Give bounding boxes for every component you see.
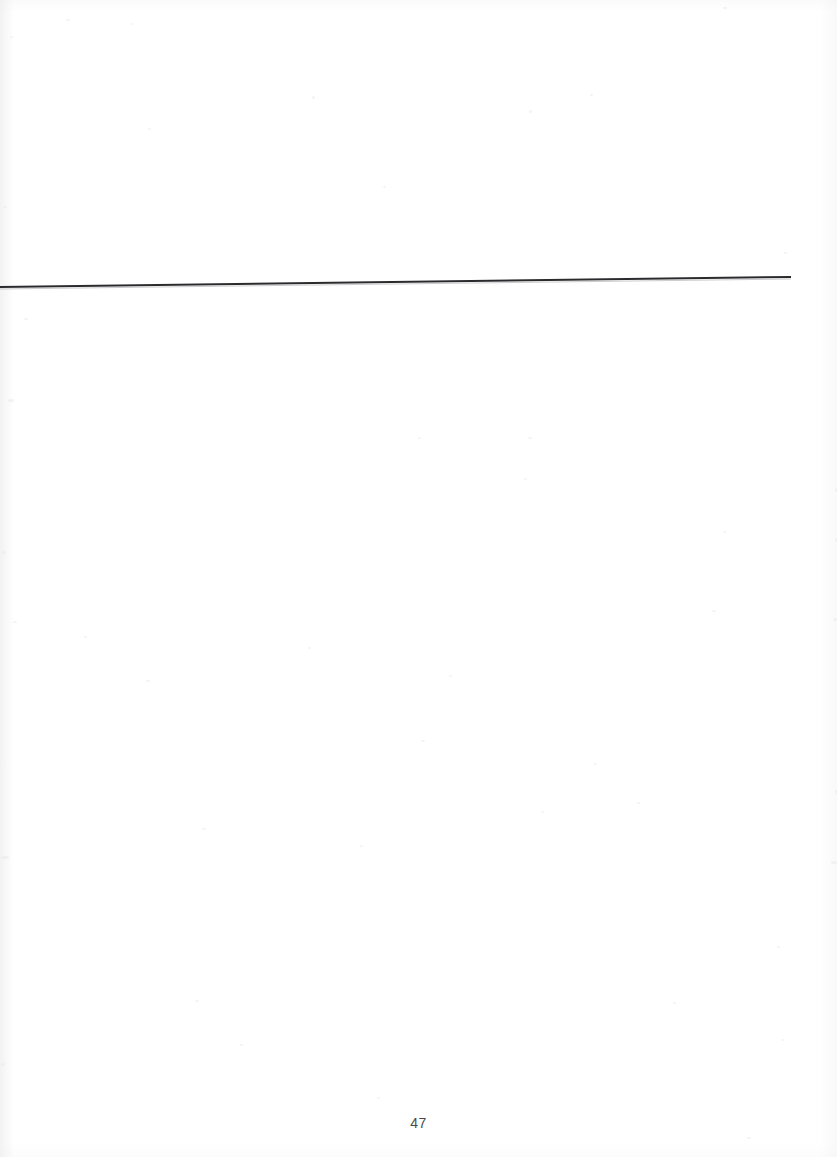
scan-speck xyxy=(747,1137,751,1139)
page-header-area xyxy=(0,0,837,278)
scanned-page: 47 xyxy=(0,0,837,1157)
page-body-area xyxy=(0,292,837,1102)
page-number: 47 xyxy=(0,1115,837,1131)
